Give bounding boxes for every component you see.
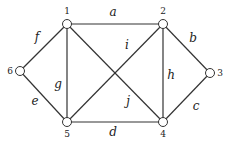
edge-label-h: h	[167, 68, 175, 82]
edge-label-f: f	[34, 30, 42, 44]
edge-label-c: c	[193, 99, 200, 113]
edges: abcdefghij	[20, 5, 210, 139]
edge-label-e: e	[31, 94, 38, 108]
edge-label-i: i	[125, 38, 129, 52]
graph-diagram: abcdefghij 123456	[0, 0, 231, 143]
node-label-6: 6	[7, 66, 13, 76]
edge-f	[20, 24, 67, 71]
node-label-4: 4	[160, 129, 166, 139]
edge-label-a: a	[109, 5, 116, 19]
node-label-3: 3	[217, 68, 223, 78]
node-label-5: 5	[64, 129, 70, 139]
node-5	[63, 118, 72, 127]
node-4	[159, 118, 168, 127]
node-label-2: 2	[160, 6, 166, 16]
edge-label-d: d	[109, 125, 117, 139]
edge-b	[163, 24, 210, 73]
node-label-1: 1	[64, 6, 70, 16]
edge-label-g: g	[54, 77, 62, 91]
edge-label-b: b	[189, 31, 197, 45]
node-2	[159, 20, 168, 29]
node-1	[63, 20, 72, 29]
node-6	[16, 67, 25, 76]
edge-label-j: j	[123, 94, 130, 108]
node-3	[206, 69, 215, 78]
